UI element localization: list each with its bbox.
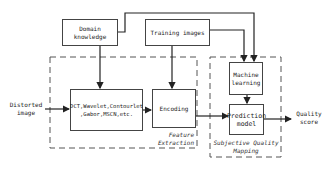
prediction-model-box: Prediction model <box>229 104 264 135</box>
feature-extraction-group-label: Feature Extraction <box>156 131 194 147</box>
quality-score-label: Quality score <box>292 110 326 126</box>
domain-knowledge-box: Domain knowledge <box>62 19 118 46</box>
domain-knowledge-label: Domain knowledge <box>63 25 117 41</box>
machine-learning-box: Machine learning <box>229 62 263 95</box>
distorted-image-label: Distorted image <box>8 101 44 117</box>
encoding-box: Encoding <box>152 89 196 128</box>
subjective-quality-mapping-group-label: Subjective Quality Mapping <box>212 139 280 155</box>
transform-methods-box: DCT,Wavelet,Contourlet ,Gabor,MSCN,etc. <box>70 89 143 131</box>
training-images-box: Training images <box>145 19 210 46</box>
encoding-label: Encoding <box>160 105 189 113</box>
machine-learning-label: Machine learning <box>230 71 262 87</box>
training-images-label: Training images <box>150 29 204 37</box>
transform-methods-label: DCT,Wavelet,Contourlet ,Gabor,MSCN,etc. <box>70 102 143 118</box>
iqa-framework-diagram: Domain knowledge Training images DCT,Wav… <box>0 0 332 170</box>
prediction-model-label: Prediction model <box>227 112 266 128</box>
